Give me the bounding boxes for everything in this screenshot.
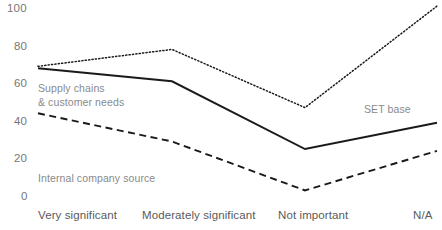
annotation-internal-company-source: Internal company source (38, 172, 155, 185)
annotation-set-base: SET base (364, 103, 411, 116)
annotation-supply-chains-line1: Supply chains (38, 81, 124, 95)
line-chart: 100 80 60 40 20 0 Supply chains & custom… (0, 0, 442, 230)
x-category-label-very-significant: Very significant (38, 209, 117, 222)
x-category-label-moderately-significant: Moderately significant (142, 209, 255, 222)
annotation-supply-chains: Supply chains & customer needs (38, 81, 124, 109)
x-category-label-not-important: Not important (278, 209, 348, 222)
annotation-supply-chains-line2: & customer needs (38, 95, 124, 109)
x-category-label-na: N/A (413, 209, 432, 222)
